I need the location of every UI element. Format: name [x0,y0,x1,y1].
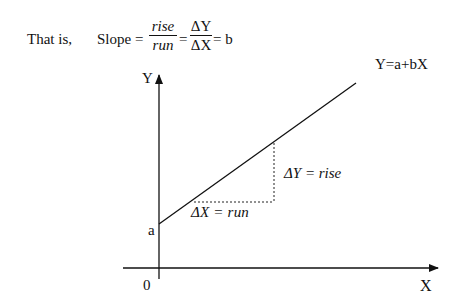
run-label: ΔX = run [191,205,249,220]
y-axis-label: Y [142,71,153,86]
x-axis-label: X [420,278,432,294]
origin-label: 0 [143,278,151,293]
rise-label: ΔY = rise [284,166,341,181]
intercept-label: a [148,223,155,238]
line-equation-label: Y=a+bX [375,57,428,72]
linear-function-diagram [0,0,459,307]
regression-line [159,83,356,224]
